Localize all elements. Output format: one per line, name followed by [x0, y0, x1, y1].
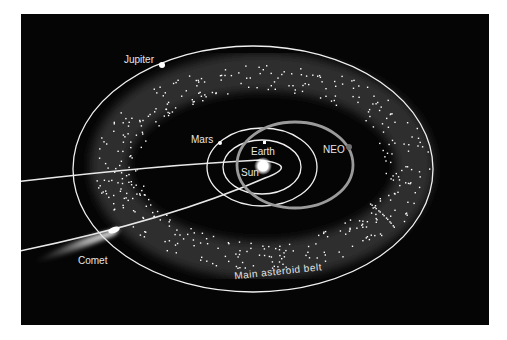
solar-system-diagram: Jupiter Mars Earth Sun NEO Comet Main as…: [0, 0, 507, 340]
label-earth: Earth: [251, 146, 275, 157]
earth-body: [263, 141, 266, 144]
label-neo: NEO: [323, 144, 345, 155]
neo-body: [346, 144, 352, 150]
label-mars: Mars: [191, 134, 213, 145]
label-sun: Sun: [241, 167, 259, 178]
jupiter-body: [159, 62, 165, 68]
label-comet: Comet: [78, 255, 108, 266]
mars-body: [218, 141, 222, 145]
label-jupiter: Jupiter: [124, 54, 155, 65]
